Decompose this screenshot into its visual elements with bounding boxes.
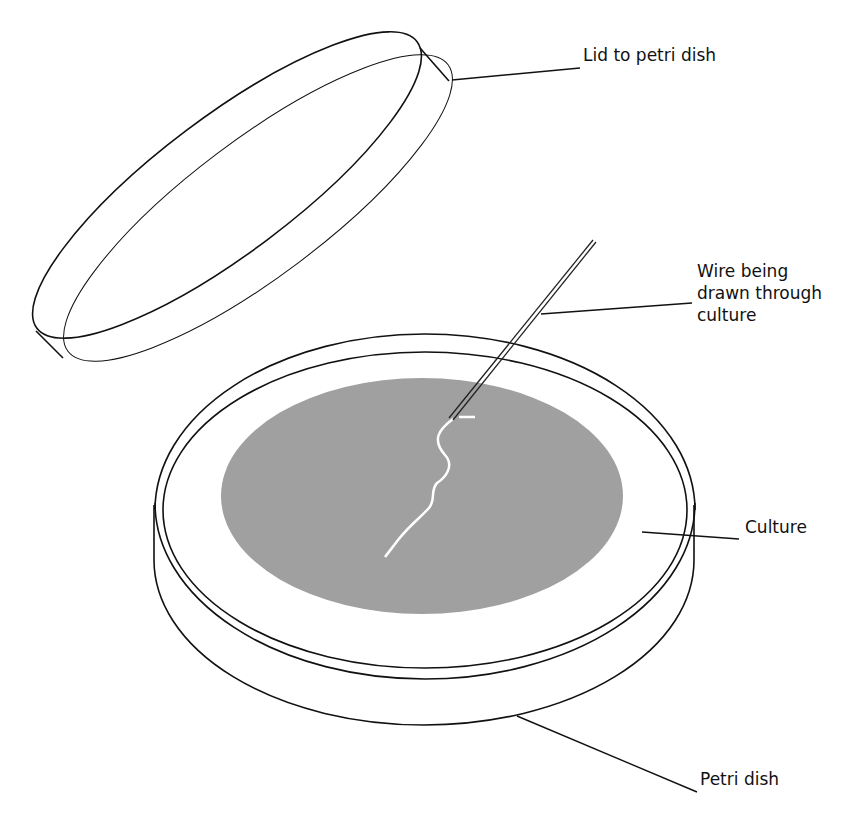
label-wire: Wire being drawn through culture xyxy=(697,260,822,326)
petri-dish-diagram xyxy=(0,0,867,815)
label-lid: Lid to petri dish xyxy=(583,44,716,66)
label-culture: Culture xyxy=(745,516,807,538)
culture-area xyxy=(221,378,623,614)
lid-shape xyxy=(0,0,489,406)
label-petri-dish: Petri dish xyxy=(700,768,779,790)
